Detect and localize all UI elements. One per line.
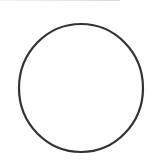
hand-drawn-circle [19,24,143,152]
canvas [0,0,159,168]
